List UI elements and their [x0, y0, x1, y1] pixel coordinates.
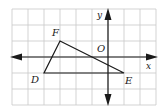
y-axis-down-arrow-icon [105, 94, 112, 106]
coordinate-plane-diagram: FEDyxO x y O [0, 0, 163, 108]
y-axis-up-arrow-icon [105, 8, 112, 20]
vertex-label-f: F [51, 27, 60, 38]
origin-label: O [97, 43, 105, 54]
vertex-label-e: E [124, 75, 133, 86]
x-axis-label: x [146, 61, 151, 71]
labels: FEDyxO [30, 10, 151, 86]
vertex-label-d: D [30, 74, 39, 85]
axes [10, 8, 158, 106]
coordinate-grid: FEDyxO [0, 0, 163, 108]
y-axis-label: y [96, 10, 103, 20]
